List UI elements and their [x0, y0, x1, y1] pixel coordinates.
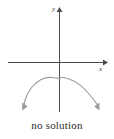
parabola-curve	[24, 77, 98, 105]
graph-figure: y x no solution	[0, 0, 114, 139]
y-axis-arrow-icon	[57, 7, 63, 12]
caption-no-solution: no solution	[0, 118, 114, 132]
x-axis-arrow-icon	[103, 60, 108, 66]
curve-left-arrow-icon	[22, 103, 27, 111]
y-axis-label: y	[51, 5, 56, 13]
x-axis-label: x	[98, 65, 103, 73]
